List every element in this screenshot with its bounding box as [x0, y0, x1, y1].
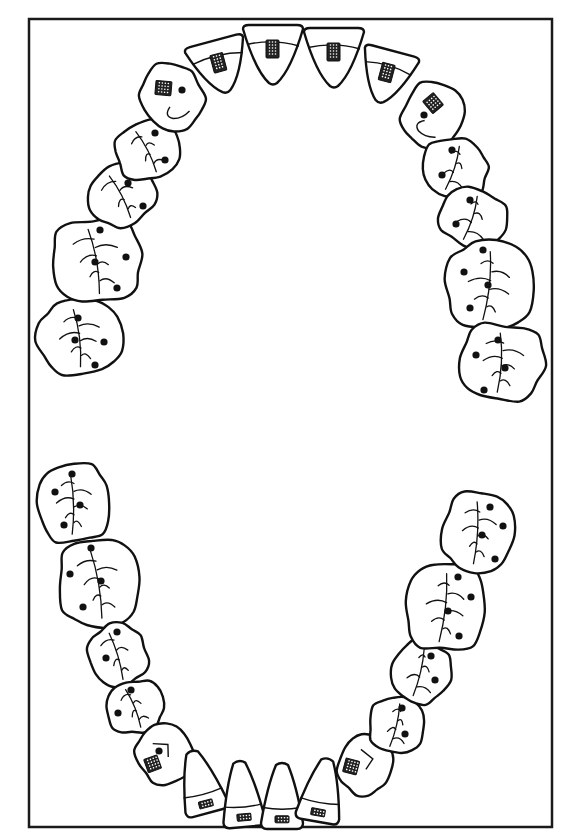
pit-dot [398, 704, 405, 711]
pit-dot [127, 686, 134, 693]
restoration-stipple [237, 813, 252, 821]
tooth-outline [456, 321, 549, 405]
pit-dot [161, 156, 168, 163]
pit-dot [444, 607, 451, 614]
maxillary-arch [32, 25, 549, 404]
pit-dot [155, 747, 162, 754]
pit-dot [122, 253, 129, 260]
pit-dot [113, 284, 120, 291]
dental-chart-diagram [0, 0, 575, 834]
pit-dot [420, 111, 427, 118]
pit-dot [501, 364, 508, 371]
pit-dot [460, 268, 467, 275]
pit-dot [60, 521, 67, 528]
restoration-stipple [155, 80, 172, 95]
pit-dot [431, 676, 438, 683]
pit-dot [427, 652, 434, 659]
pit-dot [486, 503, 493, 510]
pit-dot [71, 336, 78, 343]
pit-dot [438, 171, 445, 178]
tooth-u-l8 [456, 321, 549, 405]
pit-dot [79, 603, 86, 610]
restoration-stipple [327, 43, 340, 61]
pit-dot [97, 577, 104, 584]
pit-dot [178, 86, 185, 93]
pit-dot [484, 281, 491, 288]
pit-dot [91, 361, 98, 368]
restoration-stipple [266, 40, 279, 58]
pit-dot [472, 351, 479, 358]
pit-dot [499, 522, 506, 529]
pit-dot [479, 246, 486, 253]
pit-dot [68, 470, 75, 477]
pit-dot [455, 632, 462, 639]
pit-dot [139, 202, 146, 209]
pit-dot [76, 501, 83, 508]
tooth-u-l1 [304, 28, 364, 88]
pit-dot [102, 654, 109, 661]
pit-dot [114, 709, 121, 716]
pit-dot [124, 179, 131, 186]
pit-dot [74, 314, 81, 321]
pit-dot [478, 531, 485, 538]
pit-dot [151, 129, 158, 136]
pit-dot [87, 544, 94, 551]
pit-dot [113, 628, 120, 635]
pit-dot [66, 570, 73, 577]
restoration-stipple [275, 816, 289, 823]
pit-dot [466, 196, 473, 203]
pit-dot [91, 258, 98, 265]
tooth-u-r8 [32, 295, 127, 378]
pit-dot [100, 338, 107, 345]
pit-dot [467, 593, 474, 600]
pit-dot [491, 555, 498, 562]
pit-dot [51, 488, 58, 495]
pit-dot [480, 386, 487, 393]
pit-dot [401, 730, 408, 737]
tooth-l-r7 [52, 535, 146, 634]
pit-dot [494, 336, 501, 343]
tooth-u-r1 [243, 25, 303, 85]
pit-dot [96, 226, 103, 233]
pit-dot [448, 146, 455, 153]
pit-dot [454, 573, 461, 580]
mandibular-arch [37, 463, 518, 829]
tooth-l-l1 [261, 763, 303, 829]
pit-dot [452, 220, 459, 227]
restoration-stipple [343, 758, 360, 775]
pit-dot [466, 304, 473, 311]
